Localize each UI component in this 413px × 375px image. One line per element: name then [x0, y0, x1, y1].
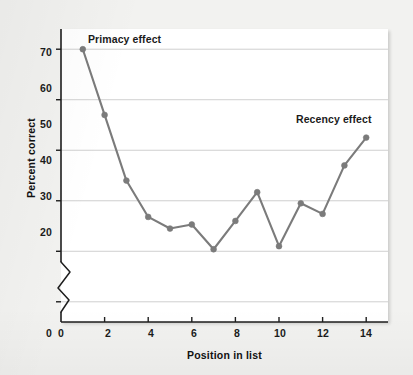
- x-tick-label-4: 4: [138, 327, 164, 339]
- annotation-recency-effect: Recency effect: [296, 113, 372, 125]
- y-axis-break-icon: [58, 262, 70, 312]
- y-tick-label-70: 70: [26, 46, 52, 58]
- data-line-percent-correct: [83, 49, 366, 249]
- y-tick-label-20: 20: [26, 226, 52, 238]
- x-tick-label-14: 14: [353, 327, 379, 339]
- annotation-primacy-effect: Primacy effect: [88, 33, 161, 45]
- x-tick-label-6: 6: [181, 327, 207, 339]
- y-tick-label-60: 60: [26, 82, 52, 94]
- serial-position-curve-figure: 70 60 50 40 30 20 0 0 2 4 6 8 10 12 14 P…: [0, 0, 413, 375]
- y-axis-title: Percent correct: [25, 103, 37, 213]
- x-tick-label-12: 12: [310, 327, 336, 339]
- x-tick-label-2: 2: [95, 327, 121, 339]
- x-tick-label-8: 8: [224, 327, 250, 339]
- data-point-markers: [80, 46, 369, 252]
- chart-canvas: [0, 0, 413, 375]
- x-axis-title: Position in list: [61, 349, 388, 361]
- x-tick-label-0: 0: [48, 327, 74, 339]
- x-tick-label-10: 10: [267, 327, 293, 339]
